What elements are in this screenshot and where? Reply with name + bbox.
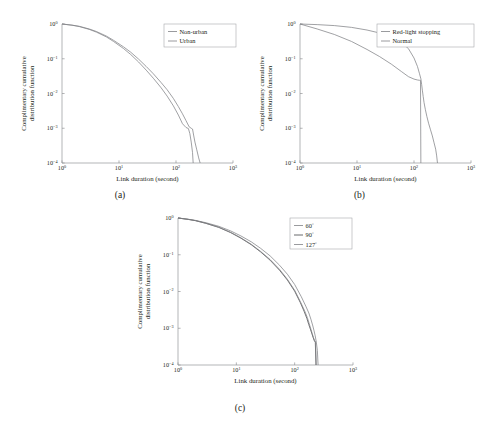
x-axis-label: Link duration (second) — [234, 377, 296, 385]
legend-item-label: Urban — [180, 37, 197, 44]
panel-b: 10010110210310010−110−210−310−4Link dura… — [240, 0, 479, 205]
chart-legend: Red-light stoppingNormal — [377, 24, 474, 47]
x-tick-label: 103 — [349, 366, 357, 373]
x-tick-label: 100 — [174, 366, 182, 373]
x-tick-label: 100 — [296, 164, 304, 171]
y-axis-label-line2: distribution function — [144, 263, 151, 319]
x-tick-label: 101 — [115, 164, 123, 171]
y-tick-label: 10−2 — [285, 89, 296, 96]
x-tick-label: 102 — [172, 164, 180, 171]
x-tick-label: 102 — [291, 366, 299, 373]
y-axis-label-line2: distribution function — [28, 65, 35, 121]
y-tick-label: 10−1 — [285, 55, 296, 62]
chart-legend: 60°90°127° — [290, 218, 352, 249]
x-tick-label: 101 — [232, 366, 240, 373]
x-axis-label: Link duration (second) — [354, 175, 416, 183]
panel-a: 10010110210310010−110−210−310−4Link dura… — [0, 0, 240, 205]
panel-c-caption: (c) — [110, 403, 370, 413]
y-tick-label: 100 — [49, 20, 57, 27]
y-tick-label: 10−4 — [163, 361, 175, 368]
legend-item-label: Normal — [393, 37, 413, 44]
x-tick-label: 102 — [410, 164, 418, 171]
y-tick-label: 10−3 — [47, 124, 58, 131]
y-axis-label-line1: Complimentary cumulative — [136, 254, 143, 329]
chart-c: 10010110210310010−110−210−310−4Link dura… — [110, 205, 370, 403]
legend-item-label: Non-urban — [180, 28, 208, 35]
y-tick-label: 10−2 — [47, 89, 58, 96]
y-tick-label: 10−2 — [163, 287, 174, 294]
y-tick-label: 10−4 — [285, 159, 297, 166]
chart-a: 10010110210310010−110−210−310−4Link dura… — [0, 0, 240, 190]
x-tick-label: 101 — [353, 164, 361, 171]
x-tick-label: 103 — [229, 164, 237, 171]
y-tick-label: 100 — [165, 214, 173, 221]
panel-a-caption: (a) — [0, 190, 240, 200]
x-tick-label: 103 — [467, 164, 475, 171]
x-axis-label: Link duration (second) — [116, 175, 178, 183]
y-tick-label: 10−3 — [285, 124, 296, 131]
legend-item-label: Red-light stopping — [393, 28, 442, 35]
y-tick-label: 10−3 — [163, 324, 174, 331]
y-axis-label-line1: Complimentary cumulative — [20, 56, 27, 131]
y-tick-label: 10−4 — [47, 159, 59, 166]
y-tick-label: 10−1 — [163, 251, 174, 258]
y-axis-label-line1: Complimentary cumulative — [258, 56, 265, 131]
y-axis-label-line2: distribution function — [266, 65, 273, 121]
y-tick-label: 10−1 — [47, 55, 58, 62]
y-tick-label: 100 — [287, 20, 295, 27]
panel-c: 10010110210310010−110−210−310−4Link dura… — [110, 205, 370, 422]
x-tick-label: 100 — [58, 164, 66, 171]
chart-b: 10010110210310010−110−210−310−4Link dura… — [240, 0, 479, 190]
chart-legend: Non-urbanUrban — [164, 24, 236, 47]
panel-b-caption: (b) — [240, 190, 479, 200]
